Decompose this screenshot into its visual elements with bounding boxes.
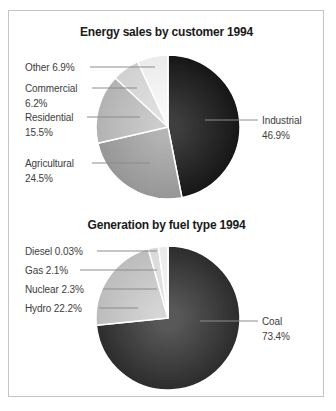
callout-gas: Gas 2.1%	[25, 263, 68, 278]
energy-sales-chart-title: Energy sales by customer 1994	[8, 25, 325, 39]
callout-diesel: Diesel 0.03%	[25, 244, 83, 259]
callout-agricultural: Agricultural24.5%	[25, 156, 74, 186]
callout-industrial: Industrial46.9%	[262, 113, 302, 143]
pie-slice-industrial	[168, 55, 240, 198]
callout-commercial: Commercial6.2%	[25, 81, 77, 111]
callout-nuclear: Nuclear 2.3%	[25, 282, 84, 297]
generation-fuel-chart-title: Generation by fuel type 1994	[8, 218, 325, 232]
callout-hydro: Hydro 22.2%	[25, 301, 82, 316]
callout-coal: Coal73.4%	[262, 314, 290, 344]
callout-other: Other 6.9%	[25, 60, 75, 75]
callout-residential: Residential15.5%	[25, 110, 73, 140]
report-page: Energy sales by customer 1994 Generation…	[0, 0, 336, 411]
